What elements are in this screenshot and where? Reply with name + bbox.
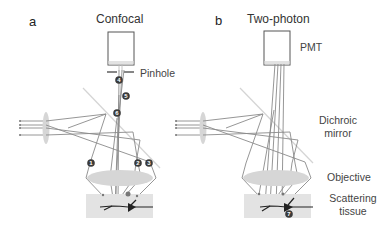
excitation-beams-b bbox=[175, 120, 203, 136]
objective-label: Objective bbox=[327, 172, 371, 183]
panel-title-confocal: Confocal bbox=[96, 13, 143, 25]
dichroic-mirror-a bbox=[83, 88, 160, 168]
pmt-detector-a bbox=[108, 32, 134, 65]
tissue-label-line2: tissue bbox=[324, 206, 382, 217]
pmt-label: PMT bbox=[300, 42, 322, 53]
badge-7: 7 bbox=[285, 210, 293, 218]
panel-title-two-photon: Two-photon bbox=[247, 13, 310, 25]
badge-2: 2 bbox=[134, 159, 142, 167]
dichroic-label-line2: mirror bbox=[310, 128, 366, 139]
objective-lens-a bbox=[87, 170, 153, 186]
badge-3: 3 bbox=[145, 159, 153, 167]
panel-letter-b: b bbox=[215, 14, 222, 27]
tissue-label-line1: Scattering bbox=[324, 193, 382, 204]
badge-4: 4 bbox=[115, 76, 123, 84]
dichroic-label-line1: Dichroic bbox=[310, 115, 366, 126]
objective-lens-b bbox=[243, 170, 309, 186]
badge-1: 1 bbox=[87, 159, 95, 167]
badge-5: 5 bbox=[122, 92, 130, 100]
scattering-tissue-label: Scattering tissue bbox=[324, 193, 382, 216]
excitation-beams-a bbox=[19, 120, 46, 136]
pinhole-label: Pinhole bbox=[140, 68, 175, 79]
badge-6: 6 bbox=[113, 109, 121, 117]
pmt-detector-b bbox=[264, 31, 290, 65]
dichroic-mirror-label: Dichroic mirror bbox=[310, 115, 366, 138]
panel-b-two-photon: 7 bbox=[175, 31, 313, 218]
panel-letter-a: a bbox=[29, 15, 36, 28]
panel-a-confocal: 1 2 3 4 5 6 bbox=[19, 32, 160, 218]
